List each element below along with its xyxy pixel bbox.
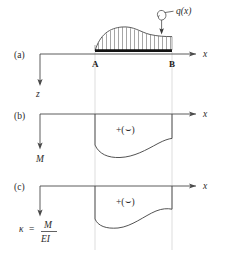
load-label: q(x) xyxy=(176,6,191,17)
panel-b-m-axis-label: M xyxy=(35,154,45,164)
panel-a-x-axis-label: x xyxy=(202,49,208,59)
panel-b-x-axis-label: x xyxy=(202,109,208,119)
panel-c-x-axis-label: x xyxy=(202,181,208,191)
curvature-numerator: M xyxy=(43,220,53,230)
curvature-equals: = xyxy=(29,224,34,234)
support-label-a: A xyxy=(92,59,99,69)
curvature-symbol: κ xyxy=(19,224,24,234)
panel-a-label: (a) xyxy=(14,50,25,61)
panel-c-label: (c) xyxy=(14,182,25,193)
beam-diagram-figure: (a) x z xyxy=(0,0,227,257)
curvature-denominator: EI xyxy=(40,234,51,244)
panel-b-sign-label: +(⌣) xyxy=(116,125,135,136)
panel-b-label: (b) xyxy=(14,111,25,122)
support-label-b: B xyxy=(169,59,175,69)
panel-a-z-axis-label: z xyxy=(35,89,40,99)
panel-c-sign-label: +(⌣) xyxy=(116,197,135,208)
figure-background xyxy=(0,0,227,257)
